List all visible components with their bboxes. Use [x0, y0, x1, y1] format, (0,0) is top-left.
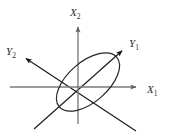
axis-y2-label-subscript: 2: [12, 51, 16, 60]
axis-y2-label: Y2: [6, 45, 16, 60]
axis-x2: X2: [69, 6, 81, 124]
axis-x2-label: X2: [69, 6, 81, 21]
axis-x1-label: X1: [146, 83, 158, 98]
axis-x2-label-subscript: 2: [77, 12, 81, 21]
axis-y1-label-subscript: 1: [135, 43, 139, 52]
axis-x1-label-subscript: 1: [154, 89, 158, 98]
axis-y1-label: Y1: [129, 37, 139, 52]
axis-y2: Y2: [6, 45, 136, 131]
tilted-ellipse: [46, 42, 130, 122]
axes-ellipse-diagram: Y2 Y1 X1 X2: [0, 0, 170, 138]
figure-container: Y2 Y1 X1 X2: [0, 0, 170, 138]
axis-y1: Y1: [34, 37, 139, 129]
